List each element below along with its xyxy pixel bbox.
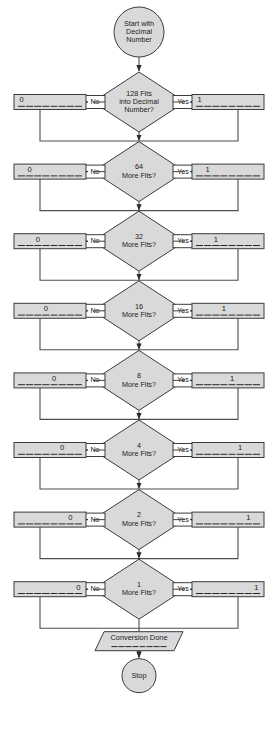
decision-label-6-line-1: More Fits?	[122, 519, 156, 528]
bit-box-no-row-3: 0	[14, 303, 86, 318]
branch-label-yes-2-text: Yes	[177, 236, 189, 245]
bit-value: 0	[52, 374, 56, 383]
bit-box-frame	[192, 582, 264, 597]
branch-label-yes-4-text: Yes	[177, 375, 189, 384]
bit-box-frame	[192, 234, 264, 249]
bit-box-frame	[192, 373, 264, 388]
bit-value: 0	[68, 513, 72, 522]
bit-value: 0	[76, 583, 80, 592]
bit-value: 1	[254, 583, 258, 592]
bit-box-no-row-6: 0	[14, 512, 86, 527]
bit-box-frame	[192, 512, 264, 527]
bit-value: 0	[36, 235, 40, 244]
bit-box-frame	[14, 164, 86, 179]
decision-label-7-line-1: More Fits?	[122, 588, 156, 597]
bit-value: 1	[246, 513, 250, 522]
branch-label-no-7-text: No	[90, 584, 99, 593]
bit-box-frame	[192, 164, 264, 179]
bit-box-yes-row-1: 1	[192, 164, 264, 179]
bit-box-yes-row-2: 1	[192, 234, 264, 249]
bit-box-frame	[14, 95, 86, 110]
bit-box-no-row-0: 0	[14, 95, 86, 110]
bit-box-no-row-7: 0	[14, 582, 86, 597]
branch-label-yes-1-text: Yes	[177, 167, 189, 176]
branch-label-no-2-text: No	[90, 236, 99, 245]
branch-label-no-6-text: No	[90, 515, 99, 524]
branch-label-no-5-text: No	[90, 445, 99, 454]
bit-box-no-row-4: 0	[14, 373, 86, 388]
decision-label-4-line-1: More Fits?	[122, 380, 156, 389]
bit-box-frame	[14, 373, 86, 388]
branch-label-yes-6-text: Yes	[177, 515, 189, 524]
bit-value: 1	[222, 304, 226, 313]
bit-box-no-row-1: 0	[14, 164, 86, 179]
branch-label-no-0-text: No	[90, 97, 99, 106]
bit-value: 1	[230, 374, 234, 383]
bit-box-frame	[14, 443, 86, 458]
decision-label-5-line-1: More Fits?	[122, 449, 156, 458]
output-label: Conversion Done	[110, 633, 167, 642]
bit-value: 0	[44, 304, 48, 313]
bit-value: 1	[238, 443, 242, 452]
decision-label-3-line-1: More Fits?	[122, 310, 156, 319]
end-node-label: Stop	[131, 671, 146, 680]
bit-value: 1	[197, 95, 201, 104]
bit-box-frame	[192, 95, 264, 110]
decision-label-2-line-1: More Fits?	[122, 240, 156, 249]
bit-box-yes-row-7: 1	[192, 582, 264, 597]
branch-label-no-1-text: No	[90, 167, 99, 176]
bit-box-frame	[192, 303, 264, 318]
branch-label-yes-0-text: Yes	[177, 97, 189, 106]
bit-box-yes-row-5: 1	[192, 443, 264, 458]
bit-box-frame	[14, 303, 86, 318]
decision-label-1-line-1: More Fits?	[122, 171, 156, 180]
flowchart-diagram: Start withDecimalNumber128 Fitsinto Deci…	[0, 0, 278, 736]
bit-value: 0	[60, 443, 64, 452]
bit-value: 1	[214, 235, 218, 244]
bit-box-no-row-2: 0	[14, 234, 86, 249]
bit-box-yes-row-4: 1	[192, 373, 264, 388]
bit-box-no-row-5: 0	[14, 443, 86, 458]
bit-box-frame	[14, 234, 86, 249]
bit-box-frame	[14, 512, 86, 527]
bit-box-frame	[14, 582, 86, 597]
branch-label-yes-3-text: Yes	[177, 306, 189, 315]
bit-value: 0	[28, 165, 32, 174]
bit-box-yes-row-3: 1	[192, 303, 264, 318]
start-node-label-line-2: Number	[126, 35, 152, 44]
bit-value: 1	[206, 165, 210, 174]
bit-value: 0	[19, 95, 23, 104]
branch-label-yes-7-text: Yes	[177, 584, 189, 593]
decision-label-0-line-2: Number?	[124, 105, 154, 114]
flowchart-canvas: Start withDecimalNumber128 Fitsinto Deci…	[0, 0, 278, 736]
bit-box-frame	[192, 443, 264, 458]
branch-label-no-4-text: No	[90, 375, 99, 384]
branch-label-yes-5-text: Yes	[177, 445, 189, 454]
branch-label-no-3-text: No	[90, 306, 99, 315]
bit-box-yes-row-0: 1	[192, 95, 264, 110]
bit-box-yes-row-6: 1	[192, 512, 264, 527]
